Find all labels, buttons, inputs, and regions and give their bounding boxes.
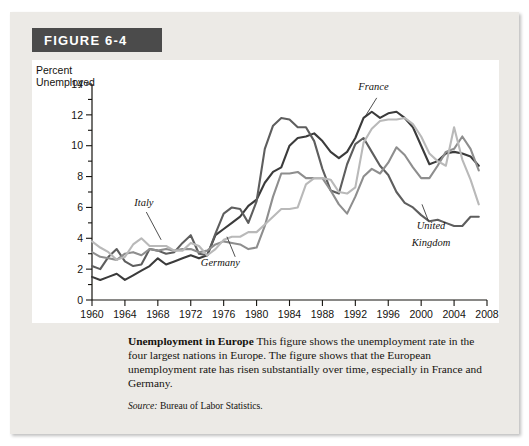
figure-caption: Unemployment in Europe This figure shows… xyxy=(128,334,490,413)
svg-text:1984: 1984 xyxy=(278,308,302,320)
svg-text:1996: 1996 xyxy=(377,308,401,320)
svg-text:1988: 1988 xyxy=(311,308,335,320)
series-label-germany: Germany xyxy=(201,257,240,268)
svg-text:6: 6 xyxy=(77,201,83,213)
svg-text:1968: 1968 xyxy=(146,308,170,320)
caption-title: Unemployment in Europe xyxy=(128,335,254,347)
series-label-united-kingdom: United xyxy=(417,220,446,231)
svg-text:2000: 2000 xyxy=(409,308,433,320)
unemployment-line-chart: 0246810121419601964196819721976198019841… xyxy=(32,60,499,323)
chart-series-group xyxy=(92,112,479,280)
chart-plot-panel: 0246810121419601964196819721976198019841… xyxy=(32,60,499,323)
chart-axis-titles: PercentUnemployedYear xyxy=(36,64,487,323)
svg-text:Percent: Percent xyxy=(36,64,72,76)
caption-source: Source: Bureau of Labor Statistics. xyxy=(128,399,490,413)
svg-text:1976: 1976 xyxy=(212,308,236,320)
series-label-france: France xyxy=(357,81,389,92)
svg-text:12: 12 xyxy=(71,109,83,121)
caption-text: Unemployment in Europe This figure shows… xyxy=(128,334,490,390)
svg-text:1960: 1960 xyxy=(80,308,104,320)
svg-text:0: 0 xyxy=(77,294,83,306)
svg-text:1980: 1980 xyxy=(245,308,269,320)
svg-text:4: 4 xyxy=(77,232,83,244)
figure-number-label: FIGURE 6-4 xyxy=(32,33,128,48)
svg-text:8: 8 xyxy=(77,170,83,182)
source-text: Bureau of Labor Statistics. xyxy=(157,400,262,411)
series-label-italy: Italy xyxy=(133,197,154,208)
chart-annotations-group: ItalyGermanyFranceUnitedKingdom xyxy=(133,81,450,268)
svg-text:1992: 1992 xyxy=(344,308,368,320)
figure-number-banner: FIGURE 6-4 xyxy=(32,28,162,52)
series-label-united-kingdom: Kingdom xyxy=(411,237,451,248)
svg-text:2004: 2004 xyxy=(442,308,466,320)
figure-card: FIGURE 6-4 02468101214196019641968197219… xyxy=(10,12,519,434)
svg-text:1972: 1972 xyxy=(179,308,203,320)
svg-text:10: 10 xyxy=(71,139,83,151)
svg-text:Unemployed: Unemployed xyxy=(36,76,95,88)
source-label: Source: xyxy=(128,400,157,411)
svg-text:1964: 1964 xyxy=(113,308,137,320)
svg-text:2: 2 xyxy=(77,263,83,275)
svg-text:2008: 2008 xyxy=(475,308,499,320)
